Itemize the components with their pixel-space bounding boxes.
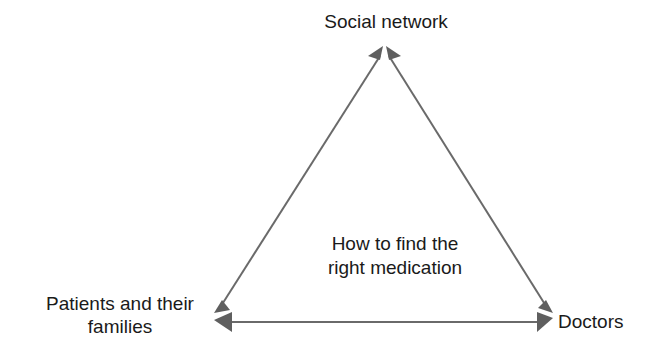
arrowhead-icon: [368, 46, 383, 60]
arrowhead-icon: [538, 300, 553, 313]
center-label-line1: How to find the: [310, 232, 480, 256]
node-label-line2: families: [20, 315, 220, 338]
node-social-network: Social network: [316, 10, 456, 33]
arrowhead-icon: [386, 46, 401, 60]
arrowhead-icon: [537, 312, 553, 332]
node-label-line1: Patients and their: [20, 292, 220, 315]
node-label: Doctors: [558, 311, 623, 332]
center-topic: How to find the right medication: [310, 232, 480, 280]
center-label-line2: right medication: [310, 256, 480, 280]
node-label: Social network: [324, 11, 448, 32]
node-patients-families: Patients and their families: [20, 292, 220, 338]
edge-patients-doctors: [214, 312, 553, 332]
node-doctors: Doctors: [558, 310, 623, 333]
